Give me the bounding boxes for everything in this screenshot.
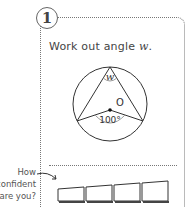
center-label: O	[116, 97, 124, 108]
angle-w-label: w	[106, 71, 115, 82]
confidence-prompt: How confident are you?	[0, 166, 36, 202]
separator	[49, 165, 177, 166]
confidence-level-1[interactable]	[58, 187, 85, 203]
circle-theorem-diagram: w O 100°	[70, 64, 150, 144]
variable-w: w	[139, 40, 149, 53]
confidence-scale	[55, 175, 175, 203]
confidence-level-4[interactable]	[142, 181, 169, 203]
question-number: 1	[36, 7, 58, 29]
question-text: Work out angle w.	[49, 40, 152, 53]
angle-100-label: 100°	[99, 115, 121, 125]
confidence-level-2[interactable]	[86, 185, 113, 203]
confidence-level-3[interactable]	[114, 183, 141, 203]
